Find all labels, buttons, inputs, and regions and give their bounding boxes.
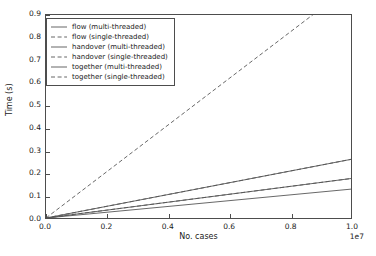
y-tick-label: 0.7 [29, 56, 41, 64]
y-tick-label: 0.3 [29, 147, 41, 155]
y-tick-label: 0.6 [29, 78, 41, 86]
legend-item-label: together (multi-threaded) [72, 64, 162, 71]
y-axis-label: Time (s) [6, 83, 14, 116]
y-tick-mark [46, 129, 50, 130]
y-tick-mark [46, 106, 50, 107]
legend-line-sample-icon [51, 63, 67, 71]
x-tick-label: 0.0 [25, 223, 65, 231]
legend-item-label: flow (multi-threaded) [72, 24, 146, 31]
x-tick-mark [230, 214, 231, 218]
x-tick-mark [292, 214, 293, 218]
legend-item: together (multi-threaded) [51, 62, 168, 72]
legend-item: handover (multi-threaded) [51, 42, 168, 52]
x-tick-mark [107, 214, 108, 218]
legend-line-sample-icon [51, 33, 67, 41]
y-tick-label: 0.4 [29, 124, 41, 132]
legend-line-sample-icon [51, 23, 67, 31]
legend-item: together (single-threaded) [51, 72, 168, 82]
legend-item-label: flow (single-threaded) [72, 34, 149, 41]
chart-figure: Time (s) 0.00.10.20.30.40.50.60.70.80.9 … [0, 0, 376, 256]
y-tick-mark [46, 197, 50, 198]
y-tick-label: 0.9 [29, 10, 41, 18]
legend-item: flow (multi-threaded) [51, 22, 168, 32]
x-tick-label: 0.8 [271, 223, 311, 231]
y-tick-label: 0.5 [29, 101, 41, 109]
legend-item: flow (single-threaded) [51, 32, 168, 42]
legend-line-sample-icon [51, 43, 67, 51]
series-line-2 [46, 179, 351, 218]
legend: flow (multi-threaded)flow (single-thread… [46, 18, 175, 86]
y-tick-label: 0.2 [29, 169, 41, 177]
y-tick-mark [46, 15, 50, 16]
legend-line-sample-icon [51, 53, 67, 61]
series-line-4 [46, 159, 351, 218]
y-tick-label: 0.8 [29, 33, 41, 41]
legend-item-label: handover (single-threaded) [72, 54, 168, 61]
y-tick-mark [46, 174, 50, 175]
x-tick-label: 0.4 [148, 223, 188, 231]
legend-item-label: handover (multi-threaded) [72, 44, 165, 51]
x-tick-mark [169, 214, 170, 218]
series-line-0 [46, 189, 351, 218]
x-tick-label: 0.6 [209, 223, 249, 231]
y-tick-label: 0.1 [29, 192, 41, 200]
y-tick-mark [46, 152, 50, 153]
x-axis-offset-text: 1e7 [350, 233, 364, 241]
legend-item-label: together (single-threaded) [72, 74, 165, 81]
x-tick-label: 0.2 [86, 223, 126, 231]
x-tick-label: 1.0 [332, 223, 372, 231]
legend-line-sample-icon [51, 73, 67, 81]
x-tick-mark [46, 214, 47, 218]
x-axis-label: No. cases [45, 233, 352, 241]
legend-item: handover (single-threaded) [51, 52, 168, 62]
